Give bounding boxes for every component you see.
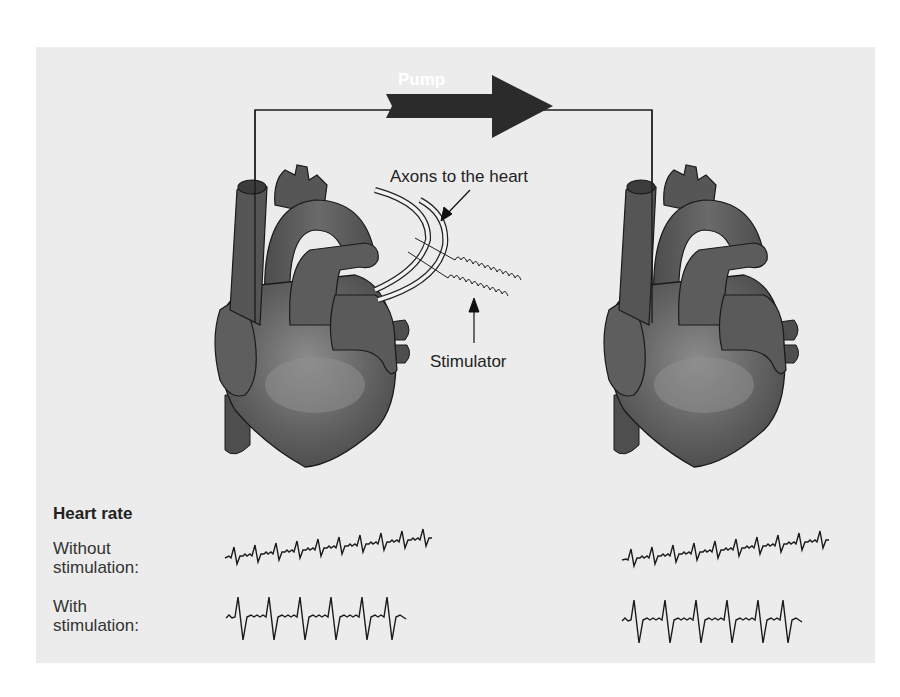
ecg-left-with [226, 597, 406, 640]
axons-pointer-arrow [441, 190, 470, 221]
without-stimulation-label: Without stimulation: [53, 539, 139, 577]
right-heart [604, 165, 799, 467]
axons-label: Axons to the heart [390, 167, 528, 186]
ecg-traces [225, 529, 829, 643]
diagram-art [0, 0, 900, 697]
ecg-left-without [225, 529, 432, 564]
pump-label: Pump [398, 70, 445, 90]
ecg-right-without [622, 531, 829, 566]
with-stimulation-label: With stimulation: [53, 597, 139, 635]
with-line1: With [53, 597, 139, 616]
stimulator-label: Stimulator [430, 352, 507, 371]
with-line2: stimulation: [53, 616, 139, 635]
ecg-right-with [622, 600, 802, 643]
stimulator-pointer-arrow [469, 298, 479, 343]
left-heart [215, 165, 410, 467]
without-line2: stimulation: [53, 558, 139, 577]
heart-rate-title: Heart rate [53, 504, 132, 523]
axons [375, 190, 445, 300]
without-line1: Without [53, 539, 139, 558]
